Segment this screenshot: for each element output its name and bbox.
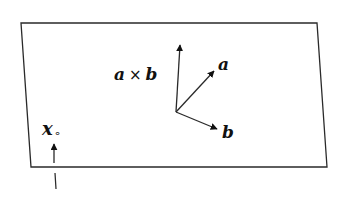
- point-x-label: x∘: [41, 118, 61, 140]
- diagram-canvas: a×b a b x∘: [0, 0, 344, 206]
- cross-product-label: a×b: [114, 64, 157, 84]
- vector-b-arrow: [176, 112, 217, 129]
- diagram-svg: a×b a b x∘: [0, 0, 344, 206]
- vector-a-arrow: [176, 71, 214, 112]
- vector-a-label: a: [218, 54, 229, 74]
- point-line-below-plane: [55, 173, 56, 189]
- plane-outline: [21, 23, 327, 167]
- cross-product-arrow: [176, 45, 180, 112]
- vector-b-label: b: [222, 122, 234, 142]
